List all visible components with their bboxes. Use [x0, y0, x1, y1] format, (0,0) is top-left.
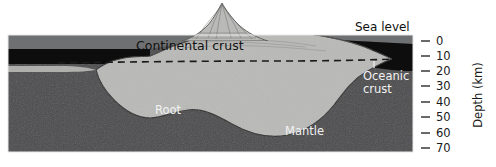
cross-section-figure: Continental crust Root Mantle Sea level …	[0, 0, 496, 167]
depth-tick-20: 20	[436, 64, 451, 78]
depth-tick-50: 50	[436, 110, 451, 124]
label-sea-level: Sea level	[355, 20, 410, 34]
label-mantle: Mantle	[285, 124, 324, 138]
label-oceanic-crust-line1: Oceanic	[363, 69, 409, 83]
depth-tick-0: 0	[436, 34, 443, 48]
label-continental-crust: Continental crust	[136, 38, 244, 53]
depth-tick-30: 30	[436, 79, 451, 93]
depth-tick-10: 10	[436, 49, 451, 63]
depth-axis-title: Depth (km)	[471, 62, 485, 128]
label-root: Root	[155, 103, 182, 117]
depth-tick-60: 60	[436, 126, 451, 140]
depth-tick-40: 40	[436, 95, 451, 109]
label-oceanic-crust-line2: crust	[363, 82, 392, 96]
depth-tick-70: 70	[436, 141, 451, 155]
